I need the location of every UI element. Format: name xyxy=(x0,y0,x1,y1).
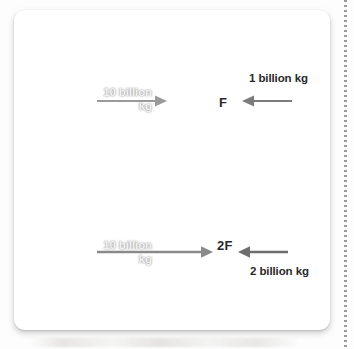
force-arrow-small-bottom xyxy=(238,245,288,259)
page-separator-rule xyxy=(344,0,347,349)
page-background: 10 billion kg F 1 billion kg 10 billion … xyxy=(0,0,354,349)
scan-artifact xyxy=(30,338,300,347)
force-label-bottom: 2F xyxy=(217,238,233,253)
figure-card: 10 billion kg F 1 billion kg 10 billion … xyxy=(14,10,330,330)
force-arrow-large-bottom xyxy=(97,245,213,259)
force-label-top: F xyxy=(219,95,227,110)
large-sphere-top xyxy=(14,10,162,158)
small-sphere-bottom xyxy=(14,317,36,339)
force-arrow-large-top xyxy=(97,94,167,108)
force-arrow-small-top xyxy=(242,94,292,108)
small-mass-label-bottom: 2 billion kg xyxy=(250,265,309,277)
small-sphere-top xyxy=(14,158,27,171)
small-mass-label-top: 1 billion kg xyxy=(249,72,308,84)
